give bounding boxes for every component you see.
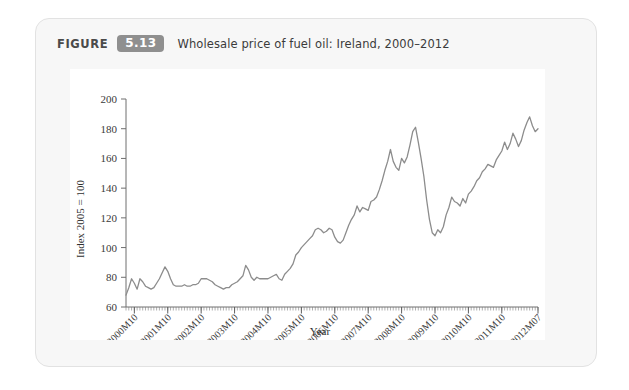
svg-text:200: 200 xyxy=(101,93,118,105)
data-series xyxy=(126,117,538,295)
x-axis-title: Year xyxy=(310,325,331,337)
figure-header: FIGURE 5.13 Wholesale price of fuel oil:… xyxy=(57,35,450,52)
svg-text:2002M10: 2002M10 xyxy=(171,312,206,340)
figure-label: FIGURE xyxy=(57,37,108,51)
svg-text:160: 160 xyxy=(101,152,118,164)
svg-text:2005M10: 2005M10 xyxy=(272,312,307,340)
figure-card: FIGURE 5.13 Wholesale price of fuel oil:… xyxy=(35,18,597,367)
svg-text:140: 140 xyxy=(101,182,118,194)
svg-text:2011M10: 2011M10 xyxy=(472,312,507,340)
y-axis: 6080100120140160180200 xyxy=(101,93,127,313)
svg-text:2008M10: 2008M10 xyxy=(372,312,407,340)
svg-text:2010M10: 2010M10 xyxy=(439,312,474,340)
line-chart: 6080100120140160180200 2000M102001M10200… xyxy=(70,69,545,340)
svg-text:2003M10: 2003M10 xyxy=(205,312,240,340)
svg-text:120: 120 xyxy=(101,212,118,224)
svg-text:80: 80 xyxy=(106,271,118,283)
svg-text:2001M10: 2001M10 xyxy=(138,312,173,340)
svg-text:2000M10: 2000M10 xyxy=(104,312,139,340)
svg-text:60: 60 xyxy=(106,301,118,313)
svg-text:2007M10: 2007M10 xyxy=(338,312,373,340)
svg-text:2004M10: 2004M10 xyxy=(238,312,273,340)
figure-number-badge: 5.13 xyxy=(117,35,164,52)
svg-text:180: 180 xyxy=(101,123,118,135)
svg-text:2009M10: 2009M10 xyxy=(405,312,440,340)
figure-title: Wholesale price of fuel oil: Ireland, 20… xyxy=(177,37,449,51)
svg-text:2012M07: 2012M07 xyxy=(508,312,543,340)
y-axis-title: Index 2005 = 100 xyxy=(74,180,86,258)
chart-plot-panel: 6080100120140160180200 2000M102001M10200… xyxy=(70,69,545,340)
svg-text:100: 100 xyxy=(101,242,118,254)
